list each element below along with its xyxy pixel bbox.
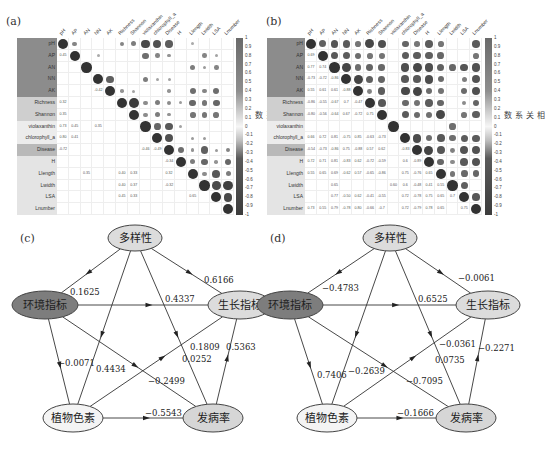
path-coefficient: −0.2639 [348, 366, 385, 376]
arrowhead-icon [224, 354, 230, 362]
path-coefficient: −0.4783 [322, 283, 359, 293]
node-label-pig: 植物色素 [305, 411, 349, 425]
path-coefficient: 0.4337 [165, 294, 195, 304]
path-coefficient: −0.0061 [458, 273, 495, 283]
path-coefficient: −0.0361 [439, 339, 476, 349]
path-coefficient: −0.7095 [406, 376, 443, 386]
path-coefficient: 0.0735 [435, 355, 465, 365]
arrowhead-icon [98, 331, 104, 339]
path-coefficient: −0.0071 [58, 358, 95, 368]
arrowhead-icon [174, 331, 181, 339]
arrowhead-icon [146, 303, 153, 307]
path-coefficient: 0.4434 [96, 364, 126, 374]
node-label-env: 环境指标 [23, 298, 67, 312]
path-edge-div-to-grow [151, 248, 222, 293]
path-coefficient: 0.6166 [204, 275, 234, 285]
arrowhead-icon [353, 331, 359, 339]
arrowhead-icon [437, 269, 445, 277]
path-coefficient: 0.0252 [182, 354, 212, 364]
node-label-div: 多样性 [119, 231, 152, 245]
node-label-dis: 发病率 [450, 411, 483, 425]
node-label-grow: 生长指标 [466, 298, 510, 312]
arrowhead-icon [158, 354, 166, 362]
path-coefficient: 0.1809 [190, 342, 220, 352]
path-diagram-c: 0.16250.61660.4337−0.00710.4434−0.24990.… [12, 225, 272, 432]
path-edge-env-to-pig [295, 319, 323, 404]
node-label-env: 环境指标 [268, 298, 312, 312]
path-coefficient: −0.2271 [478, 343, 515, 353]
arrowhead-icon [392, 303, 399, 307]
path-diagram-d: −0.4783−0.00610.65250.7406−0.2639−0.7095… [257, 225, 520, 432]
path-edge-dis-to-grow [216, 319, 236, 404]
arrowhead-icon [334, 269, 342, 277]
path-coefficient: −0.1666 [397, 408, 434, 418]
arrowhead-icon [186, 269, 194, 276]
path-coefficient: −0.2499 [148, 376, 185, 386]
path-coefficient: 0.1625 [70, 287, 100, 297]
node-label-div: 多样性 [374, 231, 407, 245]
arrowhead-icon [427, 331, 434, 339]
node-label-grow: 生长指标 [218, 298, 262, 312]
path-edge-dis-to-grow [469, 319, 486, 404]
arrowhead-icon [131, 362, 139, 370]
node-label-pig: 植物色素 [51, 411, 95, 425]
path-edge-div-to-pig [332, 251, 386, 404]
arrowhead-icon [475, 354, 481, 362]
path-coefficient: 0.6525 [418, 294, 448, 304]
node-label-dis: 发病率 [197, 411, 230, 425]
arrowhead-icon [409, 354, 417, 362]
path-coefficient: 0.5363 [226, 342, 256, 352]
path-edge-div-to-pig [78, 251, 131, 404]
path-edge-env-to-dis [308, 317, 448, 407]
arrowhead-icon [307, 361, 313, 369]
path-coefficient: −0.5543 [145, 408, 182, 418]
